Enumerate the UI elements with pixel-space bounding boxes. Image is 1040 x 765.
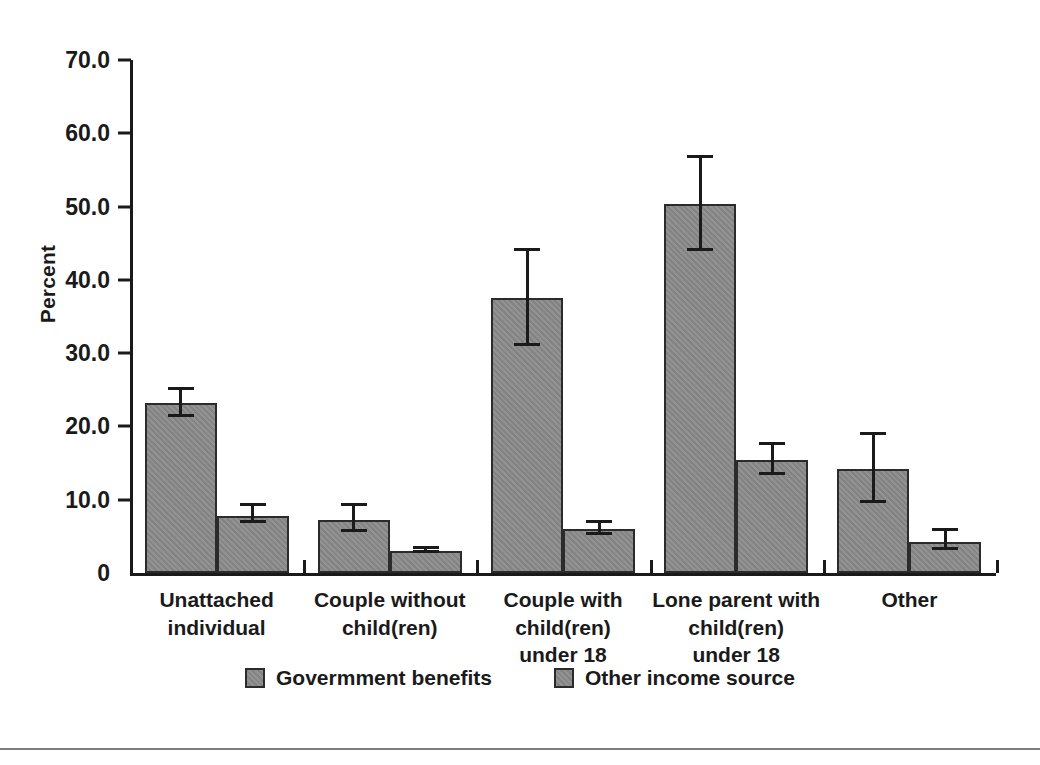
error-bar-cap bbox=[514, 343, 540, 346]
error-bar-cap bbox=[860, 432, 886, 435]
bar bbox=[563, 529, 635, 573]
y-axis-tick-label: 20.0 bbox=[18, 413, 110, 440]
bar bbox=[736, 460, 808, 573]
plot-area bbox=[130, 60, 996, 573]
error-bar-line bbox=[526, 251, 529, 346]
error-bar-cap bbox=[586, 532, 612, 535]
error-bar-cap bbox=[759, 442, 785, 445]
x-axis-tick-mark bbox=[996, 560, 999, 573]
x-axis-line bbox=[130, 573, 996, 576]
legend-item: Other income source bbox=[554, 666, 795, 690]
y-axis-tick-label: 50.0 bbox=[18, 193, 110, 220]
bar bbox=[390, 551, 462, 573]
error-bar-cap bbox=[759, 472, 785, 475]
error-bar-line bbox=[771, 445, 774, 475]
y-axis-tick-label: 0 bbox=[18, 560, 110, 587]
error-bar-cap bbox=[687, 155, 713, 158]
error-bar-cap bbox=[860, 500, 886, 503]
error-bar-line bbox=[179, 390, 182, 417]
error-bar-cap bbox=[413, 550, 439, 553]
error-bar-cap bbox=[168, 387, 194, 390]
error-bar-cap bbox=[687, 248, 713, 251]
legend-swatch bbox=[554, 668, 574, 688]
legend-swatch bbox=[245, 668, 265, 688]
y-axis-tick-label: 60.0 bbox=[18, 120, 110, 147]
error-bar-line bbox=[699, 158, 702, 250]
error-bar-cap bbox=[168, 414, 194, 417]
y-axis-tick-label: 40.0 bbox=[18, 266, 110, 293]
error-bar-cap bbox=[586, 520, 612, 523]
error-bar-cap bbox=[341, 529, 367, 532]
error-bar-line bbox=[872, 435, 875, 503]
error-bar-cap bbox=[514, 248, 540, 251]
error-bar-cap bbox=[240, 503, 266, 506]
error-bar-cap bbox=[341, 503, 367, 506]
x-axis-category-label: Other bbox=[808, 586, 1011, 614]
footer-divider bbox=[0, 748, 1040, 750]
y-axis-tick-labels: 70.060.050.040.030.020.010.00 bbox=[18, 0, 110, 765]
y-axis-tick-label: 10.0 bbox=[18, 486, 110, 513]
error-bar-cap bbox=[932, 528, 958, 531]
legend-label: Other income source bbox=[585, 666, 795, 690]
chart-legend: Govermment benefitsOther income source bbox=[0, 666, 1040, 690]
bar bbox=[664, 204, 736, 573]
legend-item: Govermment benefits bbox=[245, 666, 492, 690]
error-bar-cap bbox=[932, 547, 958, 550]
bar bbox=[217, 516, 289, 573]
bar-chart-figure: Percent 70.060.050.040.030.020.010.00 Un… bbox=[0, 0, 1040, 765]
y-axis-tick-label: 30.0 bbox=[18, 340, 110, 367]
legend-label: Govermment benefits bbox=[276, 666, 492, 690]
error-bar-cap bbox=[413, 546, 439, 549]
bar bbox=[145, 403, 217, 573]
error-bar-cap bbox=[240, 520, 266, 523]
y-axis-tick-label: 70.0 bbox=[18, 47, 110, 74]
